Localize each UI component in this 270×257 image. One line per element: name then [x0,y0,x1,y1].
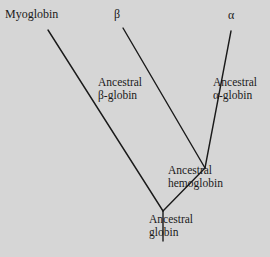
myoglobin-branch [48,30,163,211]
phylogenetic-tree-diagram: Myoglobin β α Ancestral β-globin Ancestr… [0,0,270,257]
ancestral-hemoglobin-label: Ancestral hemoglobin [168,164,223,190]
tree-branches [0,0,270,257]
ancestral-beta-globin-line2: β-globin [98,89,142,102]
ancestral-globin-line2: globin [149,226,193,239]
beta-label: β [114,8,120,21]
ancestral-globin-line1: Ancestral [149,213,193,226]
ancestral-globin-label: Ancestral globin [149,213,193,239]
ancestral-alpha-globin-line2: α-globin [213,89,257,102]
alpha-label: α [228,9,234,22]
myoglobin-label: Myoglobin [5,8,58,21]
ancestral-hemoglobin-line1: Ancestral [168,164,223,177]
ancestral-beta-globin-line1: Ancestral [98,76,142,89]
ancestral-hemoglobin-line2: hemoglobin [168,177,223,190]
ancestral-alpha-globin-label: Ancestral α-globin [213,76,257,102]
ancestral-alpha-globin-line1: Ancestral [213,76,257,89]
ancestral-beta-globin-label: Ancestral β-globin [98,76,142,102]
